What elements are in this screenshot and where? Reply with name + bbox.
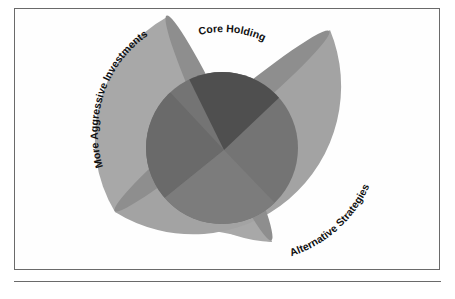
label-alternative-strategies: Alternative Strategies	[288, 182, 371, 258]
investment-diagram: Core Holding More Aggressive Investments…	[0, 0, 455, 299]
label-core-holding: Core Holding	[197, 22, 268, 43]
